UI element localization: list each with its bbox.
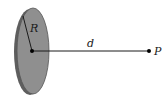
radius-label: R (29, 22, 38, 35)
disk-diagram: R d P (0, 0, 168, 101)
point-label: P (153, 45, 162, 58)
point-p-dot (147, 49, 151, 53)
disk-center-dot (30, 49, 34, 53)
distance-label: d (87, 37, 94, 50)
